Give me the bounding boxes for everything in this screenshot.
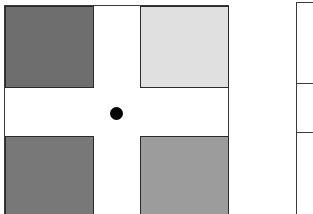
right-panel [296, 2, 313, 214]
square-bottom-left [5, 136, 94, 214]
panel-divider-1 [296, 83, 313, 84]
square-bottom-right [140, 136, 229, 214]
fixation-dot [110, 107, 123, 120]
square-top-left [5, 6, 94, 88]
panel-divider-2 [296, 132, 313, 133]
square-top-right [140, 6, 229, 88]
